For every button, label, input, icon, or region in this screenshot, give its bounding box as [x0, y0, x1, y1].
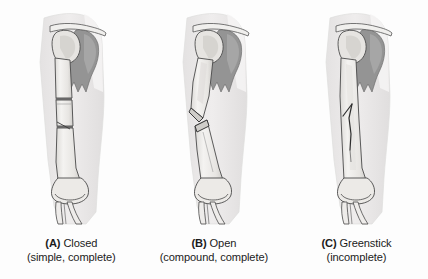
- caption-b-title: Open: [210, 237, 237, 249]
- caption-a-tag: (A): [45, 237, 60, 249]
- caption-panel-a: (A) Closed (simple, complete): [0, 236, 143, 279]
- caption-panel-c: (C) Greenstick (incomplete): [285, 236, 428, 279]
- caption-b-subtitle: (compound, complete): [143, 250, 286, 264]
- figure-captions: (A) Closed (simple, complete) (B) Open (…: [0, 236, 428, 279]
- humerus-shaft-upper: [55, 58, 72, 98]
- caption-c-subtitle: (incomplete): [285, 250, 428, 264]
- panel-b-open-fracture: [143, 0, 285, 232]
- caption-a-title: Closed: [63, 237, 97, 249]
- caption-panel-b: (B) Open (compound, complete): [143, 236, 286, 279]
- caption-a-subtitle: (simple, complete): [0, 250, 143, 264]
- caption-c-tag: (C): [321, 237, 336, 249]
- caption-c-title: Greenstick: [340, 237, 392, 249]
- panel-a-closed-fracture: [0, 0, 142, 232]
- fracture-types-figure: (A) Closed (simple, complete) (B) Open (…: [0, 0, 428, 279]
- panel-c-greenstick-fracture: [286, 0, 428, 232]
- caption-b-tag: (B): [191, 237, 206, 249]
